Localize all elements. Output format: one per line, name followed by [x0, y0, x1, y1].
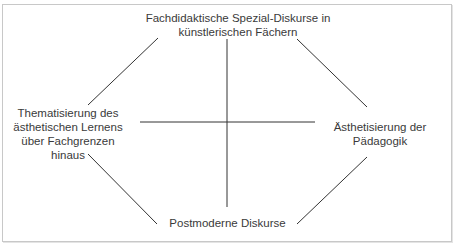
edge-top-right [297, 39, 367, 107]
edge-bottom-right [297, 157, 367, 224]
node-right-label: Ästhetisierung der Pädagogik [320, 120, 440, 148]
node-right-line-1: Ästhetisierung der [320, 120, 440, 134]
node-bottom-label: Postmoderne Diskurse [150, 216, 305, 230]
edge-top-left [88, 38, 158, 105]
node-left-line-3: über Fachgrenzen [4, 134, 132, 148]
node-right-line-2: Pädagogik [320, 134, 440, 148]
node-left-line-4: hinaus [4, 148, 132, 162]
node-left-line-2: ästhetischen Lernens [4, 120, 132, 134]
node-left-label: Thematisierung des ästhetischen Lernens … [4, 106, 132, 162]
node-top-line-1: Fachdidaktische Spezial-Diskurse in [130, 11, 346, 25]
edge-bottom-left [88, 154, 157, 224]
node-top-line-2: künstlerischen Fächern [130, 25, 346, 39]
node-bottom-line-1: Postmoderne Diskurse [150, 216, 305, 230]
node-top-label: Fachdidaktische Spezial-Diskurse in küns… [130, 11, 346, 39]
node-left-line-1: Thematisierung des [4, 106, 132, 120]
